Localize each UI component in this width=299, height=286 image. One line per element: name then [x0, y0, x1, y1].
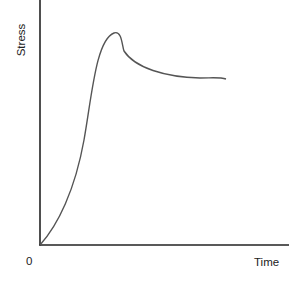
stress-time-chart [0, 0, 299, 286]
y-axis-label: Stress [15, 24, 27, 57]
x-axis-label: Time [254, 256, 279, 268]
origin-label: 0 [26, 255, 32, 267]
stress-curve [40, 33, 226, 245]
